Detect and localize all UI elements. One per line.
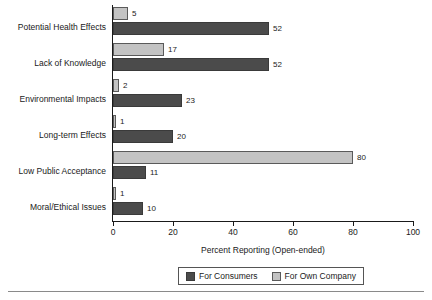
category-label-2: Environmental Impacts (0, 94, 106, 104)
x-tick (353, 222, 354, 226)
bar-group-row: 1 20 (113, 113, 413, 149)
x-tick-label-40: 40 (228, 227, 237, 238)
bar-group-row: 80 11 (113, 149, 413, 185)
bar-group-row: 1 10 (113, 185, 413, 221)
category-label-3: Long-term Effects (0, 130, 106, 140)
x-tick (293, 222, 294, 226)
bar-consumers[interactable] (113, 166, 146, 179)
bar-value-consumers: 52 (273, 58, 282, 71)
bar-own-company[interactable] (113, 115, 116, 128)
bar-value-own-company: 80 (357, 151, 366, 164)
category-label-4: Low Public Acceptance (0, 166, 106, 176)
legend-label-own-company: For Own Company (285, 271, 356, 281)
category-label-5: Moral/Ethical Issues (0, 202, 106, 212)
bar-group-row: 5 52 (113, 5, 413, 41)
bar-own-company[interactable] (113, 151, 353, 164)
bar-consumers[interactable] (113, 94, 182, 107)
bar-value-own-company: 2 (123, 79, 127, 92)
legend-item-consumers[interactable]: For Consumers (186, 271, 258, 281)
bar-value-consumers: 11 (150, 166, 158, 179)
bar-value-own-company: 17 (168, 43, 177, 56)
category-label-1: Lack of Knowledge (0, 58, 106, 68)
category-label-0: Potential Health Effects (0, 22, 106, 32)
x-tick (233, 222, 234, 226)
x-tick (113, 222, 114, 226)
bar-consumers[interactable] (113, 58, 269, 71)
legend-item-own-company[interactable]: For Own Company (272, 271, 356, 281)
footer-divider (8, 291, 424, 292)
x-axis-line (112, 221, 414, 222)
bar-value-consumers: 23 (186, 94, 195, 107)
x-tick (413, 222, 414, 226)
bar-value-own-company: 5 (132, 7, 136, 20)
chart-legend: For Consumers For Own Company (178, 267, 364, 285)
x-tick-label-80: 80 (348, 227, 357, 238)
bar-own-company[interactable] (113, 187, 116, 200)
legend-swatch-icon-own-company (272, 272, 281, 281)
bar-value-own-company: 1 (120, 115, 124, 128)
legend-label-consumers: For Consumers (199, 271, 258, 281)
bar-consumers[interactable] (113, 202, 143, 215)
bar-consumers[interactable] (113, 130, 173, 143)
bar-chart: Potential Health Effects Lack of Knowled… (0, 0, 432, 300)
bar-group-row: 17 52 (113, 41, 413, 77)
bar-consumers[interactable] (113, 22, 269, 35)
plot-area: 5 52 17 52 2 23 1 20 80 11 (113, 5, 413, 221)
x-tick-label-0: 0 (111, 227, 116, 238)
x-tick-label-20: 20 (168, 227, 177, 238)
bar-own-company[interactable] (113, 79, 119, 92)
legend-swatch-icon-consumers (186, 272, 195, 281)
bar-value-own-company: 1 (120, 187, 124, 200)
bar-group-row: 2 23 (113, 77, 413, 113)
bar-value-consumers: 20 (177, 130, 186, 143)
x-tick (173, 222, 174, 226)
x-axis-title: Percent Reporting (Open-ended) (113, 245, 413, 256)
bar-value-consumers: 10 (147, 202, 156, 215)
bar-value-consumers: 52 (273, 22, 282, 35)
bar-own-company[interactable] (113, 43, 164, 56)
x-tick-label-100: 100 (406, 227, 420, 238)
x-tick-label-60: 60 (288, 227, 297, 238)
bar-own-company[interactable] (113, 7, 128, 20)
